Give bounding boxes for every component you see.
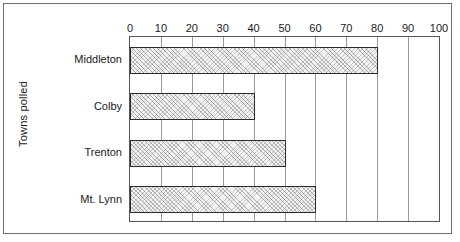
- y-category-label: Mt. Lynn: [46, 193, 122, 205]
- x-tick-label: 10: [155, 21, 167, 35]
- y-axis-category-labels: MiddletonColbyTrentonMt. Lynn: [46, 36, 122, 222]
- y-axis-title: Towns polled: [17, 59, 29, 169]
- bar: [130, 186, 316, 213]
- bar: [130, 140, 286, 167]
- x-axis-tick-labels: 0102030405060708090100: [0, 21, 460, 37]
- bar: [130, 47, 378, 74]
- bar: [130, 93, 255, 120]
- x-tick-label: 0: [127, 21, 133, 35]
- x-tick-label: 100: [430, 21, 448, 35]
- y-category-label: Middleton: [46, 53, 122, 65]
- x-tick-label: 80: [371, 21, 383, 35]
- y-category-label: Trenton: [46, 146, 122, 158]
- y-category-label: Colby: [46, 100, 122, 112]
- plot-area: [129, 36, 440, 222]
- x-tick-label: 60: [309, 21, 321, 35]
- x-tick-label: 50: [278, 21, 290, 35]
- x-tick-label: 90: [402, 21, 414, 35]
- x-tick-label: 30: [217, 21, 229, 35]
- x-tick-label: 70: [340, 21, 352, 35]
- gridline: [408, 37, 409, 221]
- x-tick-label: 20: [186, 21, 198, 35]
- x-tick-label: 40: [247, 21, 259, 35]
- bar-chart: Towns polled 0102030405060708090100 Midd…: [0, 0, 460, 242]
- plot-inner: [130, 37, 439, 221]
